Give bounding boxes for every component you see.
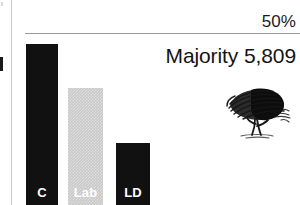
bar-label-lab: Lab <box>74 186 98 205</box>
bar-lab[interactable]: Lab <box>68 88 103 205</box>
bar-c[interactable]: C <box>26 44 58 205</box>
bar-ld[interactable]: LD <box>116 143 150 205</box>
bar-label-c: C <box>37 186 47 205</box>
oak-tree-sketch-icon <box>221 80 293 142</box>
chart-figure: 50% Majority 5,809 C Lab LD <box>0 0 300 205</box>
bar-label-ld: LD <box>124 186 142 205</box>
